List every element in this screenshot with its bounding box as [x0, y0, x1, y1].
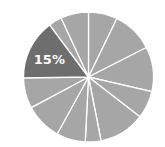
pie-chart-svg: 15%: [0, 0, 165, 147]
pie-chart: 15%: [0, 0, 165, 147]
slice-value-label: 15%: [34, 52, 65, 67]
